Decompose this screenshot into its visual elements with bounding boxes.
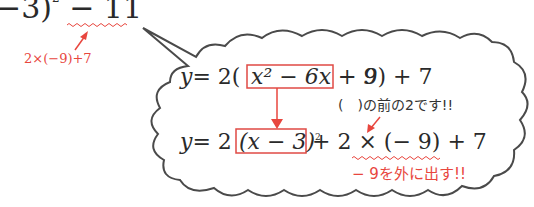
boxed-base: (x − 3) <box>239 129 315 154</box>
cloud-outline <box>143 28 528 196</box>
top-expression-tail: − 11 <box>69 0 142 25</box>
note-move-out: − 9を外に出す!! <box>352 162 466 183</box>
equation-line-1-suffix: − 9) + 7 <box>338 64 432 89</box>
equation-line-1: y= 2( <box>180 64 240 89</box>
eq-part: = 2( <box>192 64 240 89</box>
equation-line-2-suffix: + 2 × (− 9) + 7 <box>312 129 487 154</box>
top-expression-main: −3) <box>0 0 52 25</box>
var-y-2: y <box>180 129 192 154</box>
note-coefficient: ( )の前の2です!! <box>338 94 453 114</box>
boxed-term-2-text: (x − 3)2 <box>239 129 321 154</box>
annotation-arrow-head <box>80 31 88 40</box>
top-expression: −3)2 − 11 <box>0 0 142 25</box>
equation-line-2: y= 2 <box>180 129 232 154</box>
eq-part-2: = 2 <box>192 129 231 154</box>
var-y: y <box>180 64 192 89</box>
top-annotation: 2×(−9)+7 <box>24 51 92 66</box>
top-expression-sup: 2 <box>52 0 60 5</box>
